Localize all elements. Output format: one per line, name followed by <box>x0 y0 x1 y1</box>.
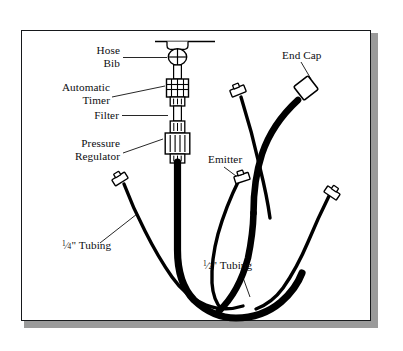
diagram-artwork <box>0 0 403 351</box>
quarter-inch-tubing-left <box>124 184 243 309</box>
label-automatic-timer-line1: Automatic <box>38 81 110 94</box>
diagram-canvas: Hose Bib Automatic Timer Filter Pressure… <box>0 0 403 351</box>
filter-icon <box>170 121 185 133</box>
label-half-inch-tubing: 1⁄2" Tubing <box>203 259 252 273</box>
label-emitter-text: Emitter <box>208 153 242 166</box>
emitter-icon <box>228 81 246 97</box>
label-end-cap: End Cap <box>282 49 322 62</box>
fraction-denominator: 2 <box>209 262 213 271</box>
leader-line-emitter <box>224 167 236 176</box>
leader-line-automatic-timer <box>112 86 165 97</box>
label-automatic-timer: Automatic Timer <box>38 81 110 106</box>
label-quarter-inch-tubing: 1⁄4" Tubing <box>62 239 111 253</box>
end-cap-icon <box>294 76 319 100</box>
label-end-cap-text: End Cap <box>282 49 322 62</box>
label-pressure-regulator: Pressure Regulator <box>44 137 120 162</box>
label-hose-bib-line1: Hose <box>62 44 120 57</box>
label-automatic-timer-line2: Timer <box>38 94 110 107</box>
label-filter-text: Filter <box>62 109 119 122</box>
label-filter: Filter <box>62 109 119 122</box>
leader-line-pressure-regulator <box>123 139 163 153</box>
label-pressure-regulator-line2: Regulator <box>44 150 120 163</box>
fraction-one-half: 1⁄2 <box>203 259 212 273</box>
label-hose-bib-line2: Bib <box>62 57 120 70</box>
pipe-segment-timer-to-filter <box>174 106 182 121</box>
half-inch-tubing-branch-endcap <box>254 100 299 213</box>
emitter-icon <box>233 169 251 184</box>
label-pressure-regulator-line1: Pressure <box>44 137 120 150</box>
wall-pipe-stub-icon <box>155 42 215 50</box>
hose-bib-icon <box>168 49 186 79</box>
fraction-denominator: 4 <box>68 242 72 251</box>
label-half-inch-tubing-text: " Tubing <box>212 259 252 271</box>
automatic-timer-icon <box>167 79 189 106</box>
label-hose-bib: Hose Bib <box>62 44 120 69</box>
fraction-one-quarter: 1⁄4 <box>62 239 71 253</box>
label-quarter-inch-tubing-text: " Tubing <box>71 239 111 251</box>
label-emitter: Emitter <box>208 153 242 166</box>
half-inch-tubing-main <box>178 162 303 318</box>
